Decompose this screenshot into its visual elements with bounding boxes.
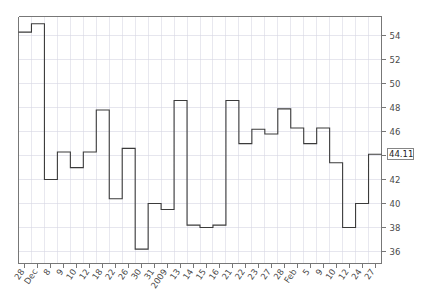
y-axis-tick-label: 50 xyxy=(390,79,401,89)
x-axis-tick-label: 13 xyxy=(168,267,182,282)
x-axis-tick-label: 15 xyxy=(194,267,208,282)
x-axis-tick-label: 5 xyxy=(301,267,312,277)
x-axis-tick-label: 8 xyxy=(41,267,52,277)
x-axis-tick-label: 12 xyxy=(336,267,350,282)
x-axis-tick-label: Feb xyxy=(282,267,299,285)
x-axis-tick-label: 27 xyxy=(362,267,376,282)
last-value-label: 44.11 xyxy=(389,149,413,159)
step-chart-svg: 36384042464850525444.1128Dec891012182226… xyxy=(0,0,428,308)
x-axis-tick-label: 18 xyxy=(90,267,104,282)
y-axis-tick-label: 52 xyxy=(390,55,401,65)
plot-area: 36384042464850525444.1128Dec891012182226… xyxy=(0,0,428,308)
x-axis-tick-label: 26 xyxy=(116,267,130,282)
y-axis-tick-label: 42 xyxy=(390,175,401,185)
x-axis-tick-label: 10 xyxy=(323,267,337,282)
x-axis-tick-label: Dec xyxy=(22,267,40,286)
x-axis-tick-label: 14 xyxy=(181,267,195,282)
x-axis-tick-label: 30 xyxy=(129,267,143,282)
chart-container: 36384042464850525444.1128Dec891012182226… xyxy=(0,0,428,308)
x-axis-tick-label: 23 xyxy=(246,267,260,282)
y-axis-tick-label: 40 xyxy=(390,199,401,209)
x-axis-tick-label: 12 xyxy=(77,267,91,282)
x-axis-tick-label: 22 xyxy=(233,267,247,282)
x-axis-tick-label: 21 xyxy=(220,267,234,282)
y-axis-tick-label: 38 xyxy=(390,223,401,233)
y-axis-tick-label: 36 xyxy=(390,247,401,257)
y-axis-tick-label: 46 xyxy=(390,127,401,137)
x-axis-tick-label: 10 xyxy=(64,267,78,282)
x-axis-tick-label: 22 xyxy=(103,267,117,282)
y-axis-tick-label: 54 xyxy=(390,31,401,41)
x-axis-tick-label: 24 xyxy=(349,267,363,282)
y-axis-tick-label: 48 xyxy=(390,103,401,113)
x-axis-tick-label: 16 xyxy=(207,267,221,282)
x-axis-tick-label: 27 xyxy=(259,267,273,282)
